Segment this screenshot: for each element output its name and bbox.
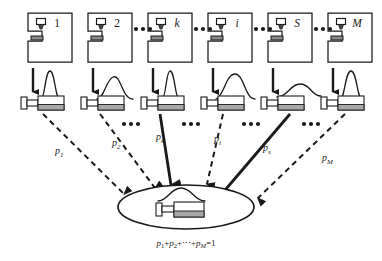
machine-label: S [294,17,300,29]
workpiece-icon [151,36,163,40]
part-icon-k [141,96,184,110]
probability-label-p1: p1 [54,145,64,159]
machine-label: 2 [114,17,120,29]
machine-station-2[interactable]: 2 [88,13,132,62]
tool-holder-icon [97,19,106,25]
workpiece-icon [31,36,43,40]
workpiece-icon [331,36,343,40]
machine-label: M [351,17,363,29]
flow-arrow-pM [258,114,345,198]
machine-station-S[interactable]: S [268,13,312,62]
distribution-curve-narrow-tall-k [162,71,179,99]
workpiece-icon [211,36,223,40]
machine-station-i[interactable]: i [208,13,252,62]
part-icon-M [321,96,364,110]
part-icon-1 [21,96,64,110]
ellipsis-top-4 [314,27,332,31]
tool-holder-icon [157,19,166,25]
machine-label: k [174,17,180,29]
ellipsis-top-2 [194,27,212,31]
part-icon-S [261,96,304,110]
flow-arrow-pi [207,114,223,184]
probability-label-ps: ps [262,142,271,156]
mixture-diagram: 1 2 k [0,0,382,261]
workpiece-icon [271,36,283,40]
mixture-pool[interactable] [118,185,254,229]
distribution-curve-narrow-tall-1 [41,71,60,99]
distribution-curve-narrow-tall-M [340,71,362,99]
machine-station-k[interactable]: k [148,13,192,62]
ellipsis-mid-4 [302,122,320,126]
tool-holder-icon [277,19,286,25]
machine-label: 1 [54,17,60,29]
distribution-curves-group [41,71,362,99]
workpiece-icon [91,36,103,40]
ellipsis-top-1 [134,27,152,31]
machine-station-1[interactable]: 1 [28,13,72,62]
part-icon-2 [81,96,124,110]
tool-holder-icon [217,19,226,25]
flow-arrow-p2 [100,114,155,188]
distribution-curve-very-wide-flat-S [277,84,321,97]
probability-labels-group: p1 p2 pk pi ps pM [54,131,334,166]
part-icon-i [201,96,244,110]
probability-label-pM: pM [321,152,334,166]
machine-label: i [235,17,238,29]
ellipsis-mid-1 [122,122,140,126]
machines-row: 1 2 k [28,13,372,62]
part-icons-group [21,96,364,110]
tool-holder-icon [337,19,346,25]
down-arrows-group [33,68,333,92]
figure-root: 1 2 k [0,0,382,261]
ellipsis-mid-3 [242,122,260,126]
flow-arrow-pk [160,114,171,185]
ellipsis-mid-2 [182,122,200,126]
ellipsis-top-3 [254,27,272,31]
sum-equation: p1+p2+⋯+pM=1 [155,238,215,249]
tool-holder-icon [37,19,46,25]
distribution-curve-wide-left-skew-i [216,74,255,99]
machine-station-M[interactable]: M [328,13,372,62]
